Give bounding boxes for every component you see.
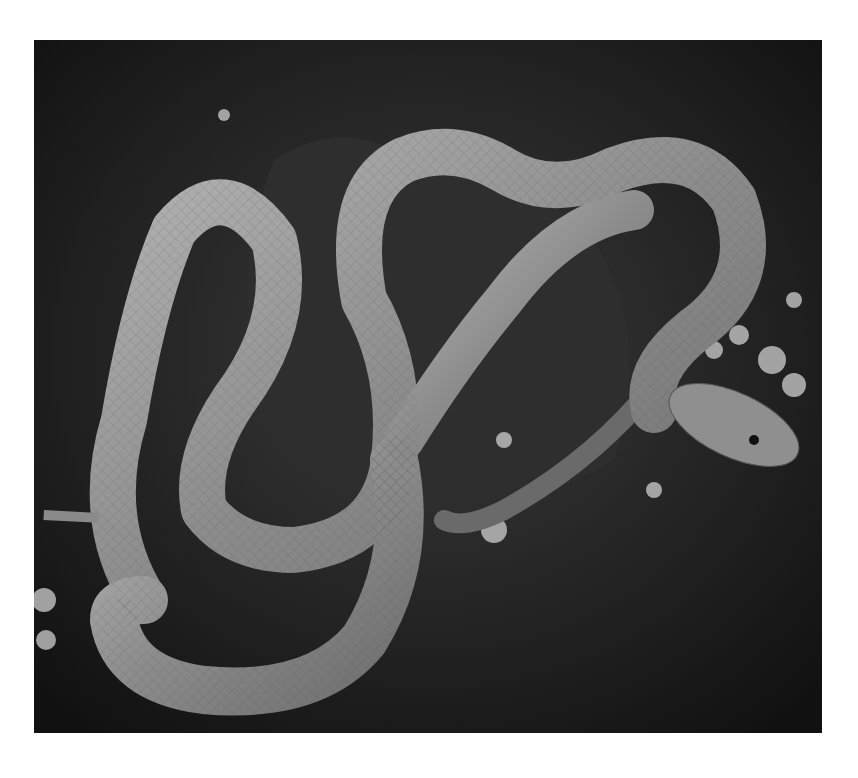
snake-eye (749, 435, 759, 445)
snake-photograph (34, 40, 822, 733)
photo-illustration (34, 40, 822, 733)
